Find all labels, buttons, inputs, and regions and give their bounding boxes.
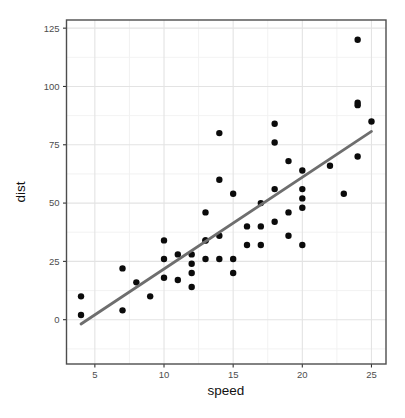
x-tick-label: 25 — [366, 369, 377, 380]
data-point — [188, 270, 194, 276]
data-point — [147, 293, 153, 299]
data-point — [258, 223, 264, 229]
data-point — [271, 139, 277, 145]
data-point — [244, 223, 250, 229]
data-point — [161, 237, 167, 243]
panel-background — [67, 20, 387, 364]
data-point — [299, 167, 305, 173]
data-point — [299, 205, 305, 211]
data-point — [285, 233, 291, 239]
data-point — [341, 191, 347, 197]
data-point — [285, 209, 291, 215]
data-point — [299, 242, 305, 248]
data-point — [230, 270, 236, 276]
y-tick-label: 25 — [49, 256, 60, 267]
data-point — [119, 265, 125, 271]
data-point — [327, 163, 333, 169]
data-point — [230, 191, 236, 197]
y-axis-title: dist — [14, 181, 28, 202]
x-tick-label: 15 — [228, 369, 239, 380]
y-tick-label: 125 — [44, 23, 60, 34]
y-tick-label: 50 — [49, 197, 60, 208]
data-point — [354, 37, 360, 43]
data-point — [354, 100, 360, 106]
x-tick-label: 5 — [92, 369, 97, 380]
data-point — [161, 256, 167, 262]
data-point — [271, 121, 277, 127]
data-point — [78, 312, 84, 318]
data-point — [175, 277, 181, 283]
data-point — [216, 130, 222, 136]
data-point — [216, 177, 222, 183]
data-point — [258, 242, 264, 248]
data-point — [202, 209, 208, 215]
y-tick-label: 75 — [49, 139, 60, 150]
data-point — [78, 293, 84, 299]
data-point — [354, 153, 360, 159]
data-point — [188, 284, 194, 290]
data-point — [299, 186, 305, 192]
y-tick-label: 100 — [44, 81, 60, 92]
data-point — [244, 242, 250, 248]
data-point — [216, 256, 222, 262]
data-point — [299, 195, 305, 201]
x-tick-label: 20 — [297, 369, 308, 380]
data-point — [271, 186, 277, 192]
data-point — [188, 261, 194, 267]
scatter-plot-figure: 5101520250255075100125 speed dist — [0, 0, 405, 418]
data-point — [202, 256, 208, 262]
data-point — [368, 118, 374, 124]
data-point — [271, 219, 277, 225]
data-point — [285, 158, 291, 164]
x-axis-title: speed — [66, 384, 386, 398]
data-point — [119, 307, 125, 313]
plot-panel: 5101520250255075100125 — [0, 0, 405, 418]
data-point — [230, 256, 236, 262]
y-tick-label: 0 — [54, 314, 59, 325]
x-tick-label: 10 — [159, 369, 170, 380]
data-point — [161, 275, 167, 281]
data-point — [175, 251, 181, 257]
